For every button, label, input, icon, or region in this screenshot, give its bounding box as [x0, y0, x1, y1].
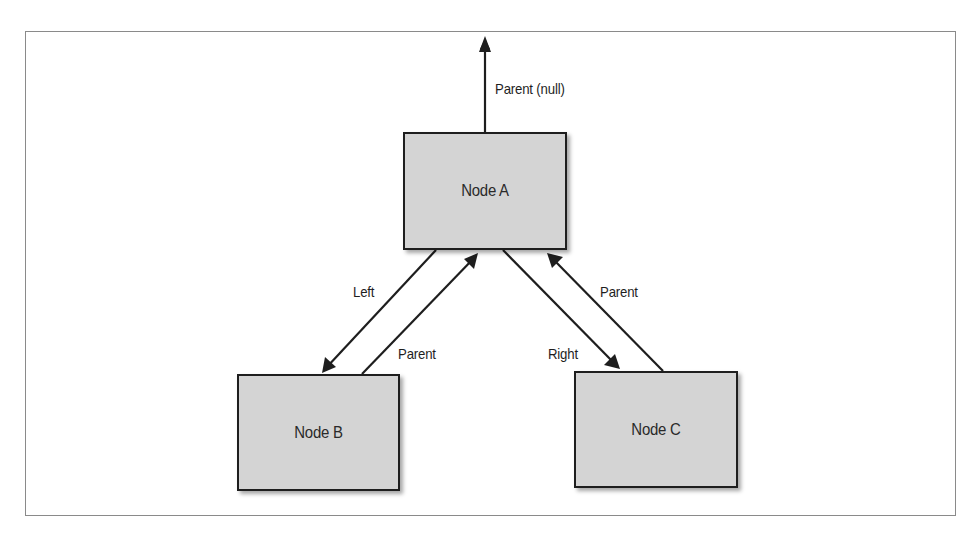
- node-a: Node A: [403, 132, 567, 250]
- arrow-head-up-icon: [479, 36, 491, 52]
- node-a-label: Node A: [461, 181, 508, 201]
- node-b-label: Node B: [294, 423, 342, 443]
- edge-layer: [0, 0, 977, 541]
- label-parent-c: Parent: [600, 283, 638, 300]
- label-parent-null: Parent (null): [495, 80, 565, 97]
- node-c: Node C: [574, 371, 738, 488]
- node-b: Node B: [237, 374, 400, 491]
- node-c-label: Node C: [631, 420, 680, 440]
- label-left: Left: [353, 283, 374, 300]
- label-parent-b: Parent: [398, 345, 436, 362]
- label-right: Right: [548, 345, 578, 362]
